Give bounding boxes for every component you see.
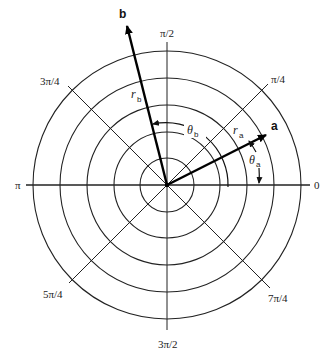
theta-b-subscript: b [194, 130, 199, 139]
radius-b-subscript: b [137, 95, 142, 104]
theta-a-symbol: θ [249, 153, 255, 167]
angle-label-0: 0 [314, 179, 320, 191]
angle-label-pi-over-4: π/4 [271, 73, 286, 85]
vector-a-label: a [271, 119, 278, 133]
radius-a-symbol: r [233, 123, 238, 137]
angle-label-pi: π [15, 179, 21, 191]
theta-b-symbol: θ [187, 123, 193, 137]
polar-diagram: 0 π/4 π/2 3π/4 π 5π/4 3π/2 7π/4 b r b a … [0, 0, 329, 356]
theta-a-subscript: a [256, 160, 261, 169]
angle-label-3pi-over-4: 3π/4 [40, 75, 60, 87]
diagonal-3pi4-7pi4 [68, 86, 270, 288]
vector-b-label: b [119, 7, 126, 21]
angle-label-3pi-over-2: 3π/2 [158, 338, 178, 350]
angle-label-pi-over-2: π/2 [160, 27, 174, 39]
radius-b-symbol: r [131, 87, 136, 101]
angle-label-7pi-over-4: 7π/4 [268, 292, 288, 304]
radius-a-subscript: a [239, 131, 244, 140]
origin-point [165, 183, 169, 187]
angle-label-5pi-over-4: 5π/4 [43, 288, 63, 300]
